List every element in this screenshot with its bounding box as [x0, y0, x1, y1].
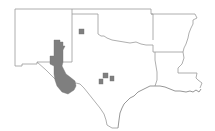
louisiana-coastline	[155, 86, 201, 92]
shaded-region-central-2	[99, 79, 103, 84]
sabine-river-border	[155, 52, 157, 86]
gulf-coastline	[118, 86, 155, 128]
panhandle-border	[72, 14, 107, 38]
shaded-region-central-1	[103, 73, 108, 78]
texas-louisiana-border	[153, 45, 183, 52]
map	[0, 0, 215, 131]
shaded-region-panhandle	[79, 29, 84, 34]
red-river-border	[107, 38, 153, 45]
arkansas-border	[151, 14, 197, 52]
rio-grande-border	[37, 62, 118, 128]
shaded-region-central-3	[110, 76, 114, 81]
new-mexico-border	[15, 9, 72, 66]
louisiana-border	[178, 52, 202, 88]
